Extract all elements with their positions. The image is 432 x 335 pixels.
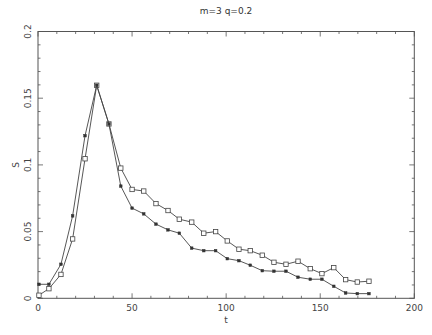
data-point-square bbox=[83, 157, 87, 161]
y-tick-labels: 00.050.10.150.2 bbox=[23, 24, 33, 301]
data-series bbox=[37, 83, 371, 297]
data-point-filled bbox=[261, 269, 264, 272]
y-tick-label: 0.1 bbox=[23, 158, 33, 172]
y-axis-label: S bbox=[11, 162, 21, 168]
data-point-square bbox=[177, 217, 181, 221]
x-tick-label: 200 bbox=[406, 303, 423, 313]
x-tick-label: 0 bbox=[35, 303, 41, 313]
data-point-filled bbox=[84, 134, 87, 137]
data-point-filled bbox=[202, 249, 205, 252]
data-point-filled bbox=[356, 292, 359, 295]
data-point-square bbox=[343, 277, 347, 281]
y-tick-label: 0.15 bbox=[23, 88, 33, 108]
data-point-square bbox=[202, 231, 206, 235]
data-point-square bbox=[213, 229, 217, 233]
data-point-square bbox=[355, 280, 359, 284]
data-point-square bbox=[296, 259, 300, 263]
data-point-filled bbox=[71, 215, 74, 218]
data-point-filled bbox=[226, 257, 229, 260]
chart-canvas: m=3 q=0.2 050100150200 00.050.10.150.2 t… bbox=[0, 0, 432, 335]
data-point-filled bbox=[214, 249, 217, 252]
data-point-square bbox=[142, 189, 146, 193]
data-point-square bbox=[37, 293, 41, 297]
data-point-square bbox=[284, 262, 288, 266]
y-tick-label: 0 bbox=[23, 295, 33, 301]
series-line bbox=[39, 85, 369, 295]
x-tick-label: 150 bbox=[312, 303, 329, 313]
data-point-square bbox=[70, 237, 74, 241]
data-point-square bbox=[332, 265, 336, 269]
data-point-square bbox=[190, 220, 194, 224]
data-point-square bbox=[59, 272, 63, 276]
data-point-filled bbox=[48, 283, 51, 286]
chart-title: m=3 q=0.2 bbox=[200, 6, 252, 16]
series-filled-markers bbox=[38, 84, 371, 295]
data-point-filled bbox=[249, 264, 252, 267]
data-point-filled bbox=[190, 247, 193, 250]
data-point-square bbox=[248, 248, 252, 252]
x-axis-label: t bbox=[224, 315, 228, 325]
y-tick-label: 0.05 bbox=[23, 222, 33, 242]
data-point-square bbox=[308, 266, 312, 270]
series-open-squares bbox=[37, 83, 371, 297]
data-point-filled bbox=[273, 270, 276, 273]
data-point-filled bbox=[309, 278, 312, 281]
data-point-filled bbox=[38, 283, 41, 286]
data-point-square bbox=[166, 208, 170, 212]
data-point-square bbox=[154, 201, 158, 205]
data-point-square bbox=[119, 166, 123, 170]
data-point-filled bbox=[321, 278, 324, 281]
data-point-filled bbox=[167, 229, 170, 232]
data-point-filled bbox=[178, 232, 181, 235]
data-point-square bbox=[260, 253, 264, 257]
y-tick-label: 0.2 bbox=[23, 24, 33, 38]
data-point-filled bbox=[60, 263, 63, 266]
data-point-square bbox=[320, 271, 324, 275]
data-point-square bbox=[367, 279, 371, 283]
data-point-filled bbox=[131, 207, 134, 210]
data-point-filled bbox=[344, 292, 347, 295]
series-line bbox=[39, 85, 369, 293]
x-tick-label: 50 bbox=[126, 303, 138, 313]
data-point-square bbox=[130, 187, 134, 191]
data-point-square bbox=[47, 286, 51, 290]
data-point-filled bbox=[332, 285, 335, 288]
data-point-filled bbox=[238, 259, 241, 262]
x-tick-labels: 050100150200 bbox=[35, 303, 423, 313]
data-point-filled bbox=[95, 84, 98, 87]
data-point-square bbox=[237, 247, 241, 251]
data-point-square bbox=[272, 260, 276, 264]
data-point-square bbox=[225, 239, 229, 243]
data-point-filled bbox=[285, 270, 288, 273]
x-tick-label: 100 bbox=[218, 303, 235, 313]
data-point-filled bbox=[368, 292, 371, 295]
data-point-filled bbox=[108, 123, 111, 126]
data-point-filled bbox=[297, 276, 300, 279]
data-point-filled bbox=[119, 185, 122, 188]
data-point-filled bbox=[155, 223, 158, 226]
data-point-filled bbox=[142, 213, 145, 216]
